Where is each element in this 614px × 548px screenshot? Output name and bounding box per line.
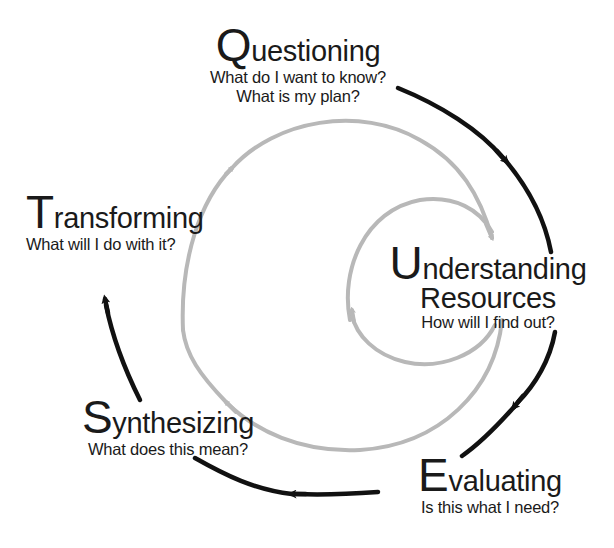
initial-letter: S [82,391,112,443]
initial-letter: T [26,186,54,238]
initial-letter: E [418,449,448,501]
stage-title-transforming: Transforming [26,189,226,235]
title-rest: valuating [449,465,562,497]
title-rest: ynthesizing [112,407,254,439]
initial-letter: Q [216,19,251,71]
stage-questioning: Questioning What do I want to know? What… [168,22,428,106]
stage-understanding-resources: Understanding Resources How will I find … [368,240,608,332]
stage-question: What will I do with it? [26,235,226,254]
stage-title-synthesizing: Synthesizing [58,394,278,440]
stage-synthesizing: Synthesizing What does this mean? [58,394,278,459]
title-rest: uestioning [251,35,380,67]
stage-title-evaluating: Evaluating [380,452,600,498]
stage-title-understanding: Understanding [368,240,608,286]
initial-letter: U [389,237,422,289]
title-rest: nderstanding [422,253,586,285]
stage-question: What is my plan? [168,87,428,106]
stage-title-questioning: Questioning [168,22,428,68]
stage-evaluating: Evaluating Is this what I need? [380,452,600,517]
stage-question: What does this mean? [58,440,278,459]
stage-question: What do I want to know? [168,68,428,87]
title-rest: ransforming [54,202,204,234]
stage-question: How will I find out? [368,313,608,332]
stage-question: Is this what I need? [380,498,600,517]
stage-transforming: Transforming What will I do with it? [26,189,226,254]
